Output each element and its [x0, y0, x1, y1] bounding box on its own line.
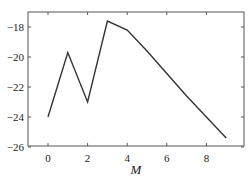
- x-tick-label: 4: [124, 152, 130, 164]
- x-tick-label: 0: [45, 152, 51, 164]
- y-tick-label: −22: [7, 81, 24, 93]
- x-tick-label: 8: [204, 152, 210, 164]
- y-tick-label: −26: [7, 141, 25, 153]
- x-tick-label: 6: [164, 152, 170, 164]
- y-tick-label: −24: [7, 111, 25, 123]
- plot-frame: [28, 12, 244, 146]
- data-line: [48, 21, 226, 138]
- chart-canvas: 02468 −18−20−22−24−26 M: [0, 0, 249, 180]
- y-tick-label: −20: [7, 51, 25, 63]
- x-axis-ticks: 02468: [45, 12, 209, 164]
- x-tick-label: 2: [85, 152, 91, 164]
- y-tick-label: −18: [7, 21, 25, 33]
- line-chart: 02468 −18−20−22−24−26 M: [0, 0, 249, 180]
- x-axis-label: M: [130, 162, 143, 177]
- y-axis-ticks: −18−20−22−24−26: [7, 21, 244, 153]
